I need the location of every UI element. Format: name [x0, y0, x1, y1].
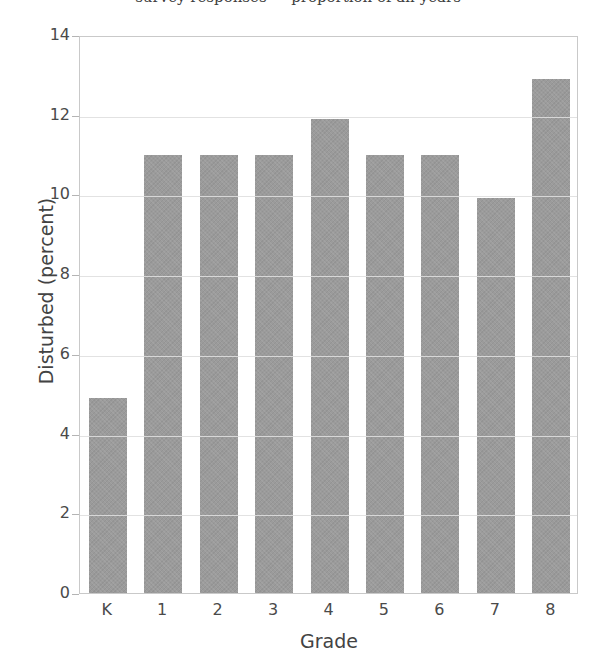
gridline [80, 276, 577, 277]
y-axis-tick-label: 8 [28, 264, 70, 283]
plot-area [79, 36, 578, 594]
top-caption-fragment: survey responses — proportion of all yea… [0, 0, 596, 10]
gridline [80, 196, 577, 197]
gridline [80, 117, 577, 118]
y-axis-tick-label: 0 [28, 583, 70, 602]
y-axis-tick-label: 6 [28, 344, 70, 363]
gridline [80, 515, 577, 516]
y-axis-tick-label: 10 [28, 184, 70, 203]
x-axis-tick-label: 5 [364, 600, 404, 619]
y-axis-tick [72, 36, 79, 37]
x-axis-title: Grade [79, 630, 579, 652]
x-axis-tick-label: 8 [530, 600, 570, 619]
x-axis-tick-label: 3 [253, 600, 293, 619]
y-axis-tick [72, 116, 79, 117]
y-axis-tick [72, 435, 79, 436]
x-axis-tick-label: K [87, 600, 127, 619]
chart-figure: survey responses — proportion of all yea… [0, 0, 596, 668]
y-axis-tick-label: 12 [28, 105, 70, 124]
y-axis-tick [72, 195, 79, 196]
gridline [80, 436, 577, 437]
y-axis-tick-label: 14 [28, 25, 70, 44]
gridlines-overlay [80, 37, 577, 593]
x-axis-tick-label: 2 [198, 600, 238, 619]
x-axis-tick-label: 7 [475, 600, 515, 619]
x-axis-tick-label: 6 [419, 600, 459, 619]
x-axis-tick-label: 4 [309, 600, 349, 619]
y-axis-tick-label: 2 [28, 503, 70, 522]
y-axis-tick [72, 514, 79, 515]
top-caption-text: survey responses — proportion of all yea… [0, 0, 596, 6]
x-axis-tick-label: 1 [142, 600, 182, 619]
y-axis-tick [72, 594, 79, 595]
y-axis-tick-label: 4 [28, 424, 70, 443]
y-axis-tick [72, 355, 79, 356]
y-axis-tick [72, 275, 79, 276]
gridline [80, 356, 577, 357]
